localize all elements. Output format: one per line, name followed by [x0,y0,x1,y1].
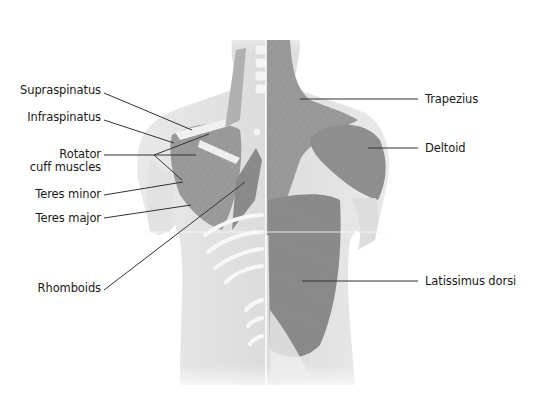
label-infraspinatus: Infraspinatus [0,111,101,124]
label-trapezius: Trapezius [425,93,478,106]
label-supraspinatus: Supraspinatus [0,84,101,97]
label-deltoid: Deltoid [425,142,465,155]
label-rotator-cuff-line2: cuff muscles [0,161,101,174]
label-rhomboids: Rhomboids [0,282,101,295]
label-teres-minor: Teres minor [0,188,101,201]
back-muscles-illustration [0,0,536,409]
label-latissimus-dorsi: Latissimus dorsi [425,275,516,288]
anatomy-figure: Supraspinatus Infraspinatus Rotator cuff… [0,0,536,409]
label-teres-major: Teres major [0,212,101,225]
right-superficial-layer [266,40,386,380]
